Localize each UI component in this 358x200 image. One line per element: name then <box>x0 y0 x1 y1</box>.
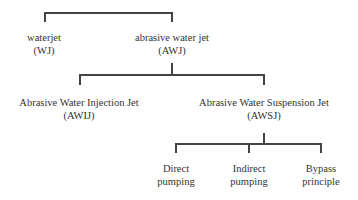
connector-awij-drop <box>79 74 81 85</box>
node-awj-label: abrasive water jet <box>135 31 209 44</box>
node-waterjet-label: waterjet <box>27 31 61 44</box>
node-indirect-pumping: Indirect pumping <box>230 162 267 188</box>
node-waterjet: waterjet (WJ) <box>27 31 61 57</box>
connector-direct-drop <box>175 143 177 153</box>
node-awj-abbr: (AWJ) <box>135 44 209 57</box>
node-awij-abbr: (AWIJ) <box>19 109 138 122</box>
node-indirect-line2: pumping <box>230 175 267 188</box>
connector-awj-drop <box>171 12 173 22</box>
connector-indirect-drop <box>248 143 250 153</box>
node-bypass-principle: Bypass principle <box>302 162 339 188</box>
node-direct-pumping: Direct pumping <box>157 162 194 188</box>
connector-awsj-drop <box>263 74 265 85</box>
connector-bypass-drop <box>320 143 322 153</box>
node-bypass-line2: principle <box>302 175 339 188</box>
node-awsj-abbr: (AWSJ) <box>199 109 329 122</box>
node-awij: Abrasive Water Injection Jet (AWIJ) <box>19 96 138 122</box>
node-abrasive-water-jet: abrasive water jet (AWJ) <box>135 31 209 57</box>
node-indirect-line1: Indirect <box>230 162 267 175</box>
connector-level2-horizontal <box>79 74 265 76</box>
node-direct-line2: pumping <box>157 175 194 188</box>
node-bypass-line1: Bypass <box>302 162 339 175</box>
node-awsj: Abrasive Water Suspension Jet (AWSJ) <box>199 96 329 122</box>
node-awsj-label: Abrasive Water Suspension Jet <box>199 96 329 109</box>
node-waterjet-abbr: (WJ) <box>27 44 61 57</box>
node-direct-line1: Direct <box>157 162 194 175</box>
connector-level1-horizontal <box>44 12 173 14</box>
node-awij-label: Abrasive Water Injection Jet <box>19 96 138 109</box>
connector-wj-drop <box>44 12 46 22</box>
